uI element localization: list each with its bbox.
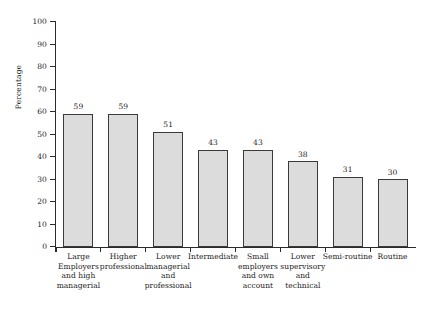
bar-value-label: 51 xyxy=(148,120,188,129)
y-axis-tick-label: 70 xyxy=(13,85,47,94)
y-axis-tick xyxy=(50,156,55,157)
y-axis-tick-label: 10 xyxy=(13,220,47,229)
y-axis-tick xyxy=(50,111,55,112)
bar xyxy=(108,114,138,247)
category-label-line: Routine xyxy=(366,252,419,262)
bar xyxy=(333,177,363,247)
bar xyxy=(198,150,228,247)
y-axis-tick xyxy=(50,44,55,45)
x-axis-category-label: Routine xyxy=(366,252,419,262)
y-axis-tick xyxy=(50,224,55,225)
category-label-line: supervisory xyxy=(276,262,329,272)
category-label-line: and xyxy=(276,271,329,281)
bar-value-label: 38 xyxy=(283,150,323,159)
y-axis-tick-label: 30 xyxy=(13,175,47,184)
bar-value-label: 59 xyxy=(103,102,143,111)
y-axis-tick-label: 50 xyxy=(13,130,47,139)
bar xyxy=(243,150,273,247)
bar xyxy=(378,179,408,247)
y-axis-tick xyxy=(50,134,55,135)
bar-value-label: 59 xyxy=(58,102,98,111)
y-axis-tick xyxy=(50,201,55,202)
category-label-line: managerial xyxy=(142,262,195,272)
bar-chart: Percentage 0102030405060708090100 595951… xyxy=(0,0,448,311)
y-axis-line xyxy=(55,21,56,248)
bar-value-label: 30 xyxy=(373,168,413,177)
y-axis-tick-label: 100 xyxy=(13,17,47,26)
bar-value-label: 43 xyxy=(193,138,233,147)
category-label-line: professional xyxy=(142,281,195,291)
y-axis-tick xyxy=(50,246,55,247)
y-axis-tick-label: 20 xyxy=(13,197,47,206)
y-axis-tick xyxy=(50,66,55,67)
y-axis-tick-label: 0 xyxy=(13,242,47,251)
y-axis-tick-label: 60 xyxy=(13,107,47,116)
category-label-line: and xyxy=(142,271,195,281)
category-label-line: technical xyxy=(276,281,329,291)
y-axis-tick xyxy=(50,89,55,90)
y-axis-tick xyxy=(50,21,55,22)
bar-value-label: 43 xyxy=(238,138,278,147)
y-axis-tick xyxy=(50,179,55,180)
category-label-line: managerial xyxy=(52,281,105,291)
y-axis-tick-label: 40 xyxy=(13,152,47,161)
y-axis-tick-label: 80 xyxy=(13,62,47,71)
bar-value-label: 31 xyxy=(328,165,368,174)
bar xyxy=(288,161,318,247)
category-label-line: and high xyxy=(52,271,105,281)
bar xyxy=(153,132,183,247)
y-axis-tick-label: 90 xyxy=(13,40,47,49)
bar xyxy=(63,114,93,247)
